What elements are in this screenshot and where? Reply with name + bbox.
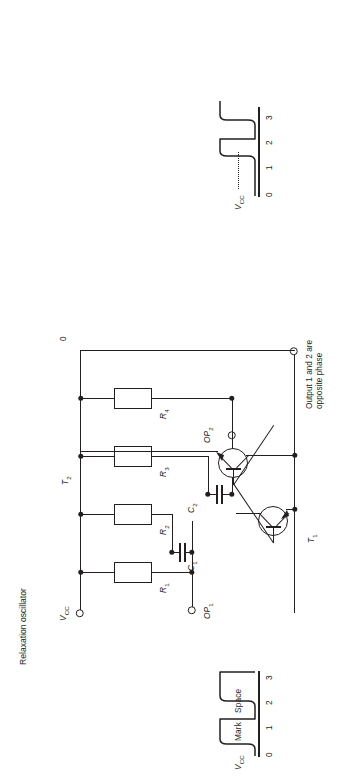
node-supply-r4 [78,396,83,401]
waveform1-trace [52,663,267,771]
branch-r2 [80,514,114,515]
branch-r1 [80,572,114,573]
wire-r2-down [152,514,172,515]
relaxation-oscillator-figure: Relaxation oscillator VCC Mark Space 0 1… [0,0,364,781]
resistor-r4-label: R4 [158,409,170,419]
note-line-1: Output 1 and 2 are [304,340,314,409]
resistor-r3-label: R3 [158,467,170,477]
ground-terminal[interactable] [290,347,298,355]
capacitor-c2-plate-top [216,485,218,504]
node-emitter-t1-rail [292,507,297,512]
node-supply-r2 [78,512,83,517]
wire-c1-upper [172,552,179,553]
node-supply-r3 [78,454,83,459]
transistor-t1-label: T1 [306,534,318,543]
node-emitter-t2-rail [292,453,297,458]
capacitor-c1-plate-top [179,543,181,562]
output-1-terminal[interactable] [188,606,196,614]
wire-r3-to-c2 [208,456,209,495]
output-1-waveform-chart: VCC Mark Space 0 1 2 3 [52,663,312,771]
ground-rail-riser [80,350,295,351]
resistor-r4-body [114,388,152,409]
wire-c2-upper [208,494,216,495]
wire-c2-lower [222,494,233,495]
transistor-t2-label: T2 [60,476,72,485]
note-line-2: opposite phase [314,353,324,409]
capacitor-c2-label: C2 [186,503,198,513]
resistor-r2-body [114,504,152,525]
transistor-t2-emitter-wire [80,451,218,452]
branch-r4 [80,398,114,399]
wire-r2-to-c1 [172,514,173,553]
resistor-r2-label: R2 [158,525,170,535]
figure-title: Relaxation oscillator [18,588,28,665]
node-supply-r1 [78,570,83,575]
wire-c1-lower [185,552,193,553]
output-2-label: OP2 [202,427,214,443]
wire-op1 [192,572,193,610]
output-1-label: OP1 [202,603,214,619]
resistor-r1-body [114,562,152,583]
waveform2-trace [52,81,267,211]
circuit-schematic: VCC 0 R1 R2 R3 R4 [36,271,336,631]
opposite-phase-note: Output 1 and 2 are opposite phase [304,340,325,409]
figure-rotator: Relaxation oscillator VCC Mark Space 0 1… [0,0,364,781]
ground-rail [294,351,295,613]
capacitor-c1-label: C1 [186,561,198,571]
wire-r4-down [152,398,232,399]
supply-label: VCC [58,606,70,621]
wire-r3-down [152,456,208,457]
branch-r3 [80,456,114,457]
supply-terminal[interactable] [76,609,84,617]
resistor-r3-body [114,446,152,467]
resistor-r1-label: R1 [158,583,170,593]
ground-label: 0 [58,336,68,341]
transistor-t1-collector-wire [236,513,261,514]
output-2-waveform-chart: VCC 0 1 2 3 [52,81,312,211]
wire-r1-down [152,572,192,573]
transistor-t2-emitter-arrow [216,447,230,461]
